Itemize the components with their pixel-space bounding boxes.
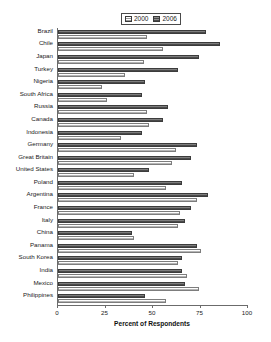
bar-2000 [58,224,178,228]
bar-group [58,141,248,154]
bar-group [58,242,248,255]
bar-group [58,28,248,41]
bar-2000 [58,123,149,127]
category-label: Chile [39,39,53,46]
bar-2000 [58,98,107,102]
bar-2000 [58,161,172,165]
bar-2000 [58,249,201,253]
bar-2000 [58,85,102,89]
bar-2000 [58,136,121,140]
bar-2000 [58,148,176,152]
category-label: Japan [36,52,53,59]
category-label: India [40,266,53,273]
bar-chart: 2000 2006 BrazilChileJapanTurkeyNigeriaS… [0,0,271,342]
bar-2000 [58,73,125,77]
category-label: Brazil [38,27,53,34]
bar-group [58,217,248,230]
bar-group [58,267,248,280]
chart-legend: 2000 2006 [121,13,181,25]
legend-swatch-2006-icon [153,16,160,22]
bar-2000 [58,186,166,190]
bar-group [58,66,248,79]
category-label: Turkey [34,65,53,72]
bar-2000 [58,47,163,51]
bar-group [58,192,248,205]
bar-2000 [58,110,147,114]
category-label: Germany [28,140,53,147]
bar-2000 [58,198,197,202]
bar-group [58,91,248,104]
x-tick-label: 75 [196,309,203,317]
category-label: South Korea [19,253,53,260]
bar-2000 [58,173,134,177]
category-label: Italy [42,216,53,223]
legend-entry-2006: 2006 [153,15,176,23]
category-axis-labels: BrazilChileJapanTurkeyNigeriaSouth Afric… [0,28,57,305]
category-label: Philippines [23,291,53,298]
category-label: Nigeria [33,77,53,84]
bar-2000 [58,60,144,64]
category-label: Russia [34,102,53,109]
category-label: Canada [31,115,53,122]
x-tick-label: 25 [101,309,108,317]
bar-group [58,292,248,305]
category-label: South Africa [20,90,53,97]
bar-group [58,179,248,192]
x-axis-title: Percent of Respondents [57,320,247,327]
category-label: Great Britain [18,153,53,160]
legend-swatch-2000-icon [125,16,132,22]
x-tick-mark [152,305,153,308]
bar-2000 [58,211,180,215]
plot-area [57,28,248,306]
bar-group [58,167,248,180]
x-tick-mark [105,305,106,308]
legend-entry-2000: 2000 [125,15,148,23]
category-label: China [37,228,53,235]
bar-2000 [58,274,187,278]
category-label: Argentina [27,190,54,197]
bar-rows [58,28,248,305]
legend-label-2000: 2000 [134,15,148,23]
category-label: Mexico [33,279,53,286]
category-label: United States [16,165,53,172]
bar-group [58,41,248,54]
bar-group [58,204,248,217]
bar-group [58,78,248,91]
bar-group [58,129,248,142]
bar-group [58,116,248,129]
bar-group [58,229,248,242]
bar-2000 [58,287,199,291]
bar-group [58,53,248,66]
bar-group [58,280,248,293]
bar-group [58,255,248,268]
bar-2000 [58,236,134,240]
bar-2000 [58,261,178,265]
x-tick-label: 100 [242,309,252,317]
category-label: Panama [30,241,53,248]
category-label: Poland [34,178,53,185]
bar-2000 [58,299,166,303]
bar-2000 [58,35,147,39]
category-label: France [34,203,53,210]
x-tick-label: 50 [149,309,156,317]
x-tick-label: 0 [55,309,58,317]
category-label: Indonesia [26,128,53,135]
x-tick-mark [247,305,248,308]
bar-group [58,104,248,117]
legend-label-2006: 2006 [162,15,176,23]
bar-group [58,154,248,167]
x-tick-mark [200,305,201,308]
x-tick-mark [57,305,58,308]
